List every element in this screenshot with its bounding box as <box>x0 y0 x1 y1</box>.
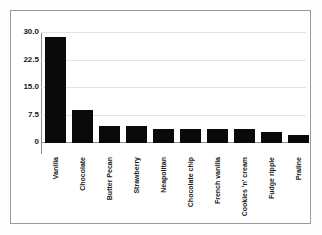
y-tick-label-22-5: 22.5 <box>23 56 39 64</box>
x-tick-label-chocolate: Chocolate <box>72 157 93 191</box>
bar-chocolate-chip <box>180 129 201 143</box>
x-tick-label-praline: Praline <box>288 157 309 180</box>
bar-praline <box>288 135 309 143</box>
x-tick-label-fudge-ripple: Fudge ripple <box>261 157 282 199</box>
bar-butter-pecan <box>99 126 120 143</box>
bar-french-vanilla <box>207 129 228 143</box>
x-tick-label-butter-pecan: Butter Pecan <box>99 157 120 200</box>
x-tick-label-strawberry: Strawberry <box>126 157 147 194</box>
x-tick-label-french-vanilla: French vanilla <box>207 157 228 204</box>
y-tick-label-7-5: 7.5 <box>28 111 39 119</box>
bar-neapolitan <box>153 129 174 143</box>
y-tick-label-30: 30.0 <box>23 28 39 36</box>
y-axis-tick-labels: 30.0 22.5 15.0 7.5 0 <box>11 32 39 154</box>
x-tick-label-chocolate-chip: Chocolate chip <box>180 157 201 207</box>
x-tick-label-cookies-n-cream: Cookies 'n' cream <box>234 157 255 216</box>
y-tick-label-15: 15.0 <box>23 83 39 91</box>
x-tick-label-neapolitan: Neapolitan <box>153 157 174 193</box>
bar-cookies-n-cream <box>234 129 255 143</box>
y-tick-label-0: 0 <box>35 138 39 146</box>
bar-strawberry <box>126 126 147 143</box>
bar-chocolate <box>72 110 93 143</box>
plot-area <box>41 32 306 154</box>
x-axis-tick-labels: Vanilla Chocolate Butter Pecan Strawberr… <box>41 157 306 223</box>
bar-fudge-ripple <box>261 132 282 143</box>
bar-chart-figure: 30.0 22.5 15.0 7.5 0 <box>0 0 322 235</box>
figure-frame: 30.0 22.5 15.0 7.5 0 <box>10 10 311 224</box>
bar-vanilla <box>45 37 66 143</box>
bars-layer <box>41 32 306 143</box>
x-tick-label-vanilla: Vanilla <box>45 157 66 179</box>
